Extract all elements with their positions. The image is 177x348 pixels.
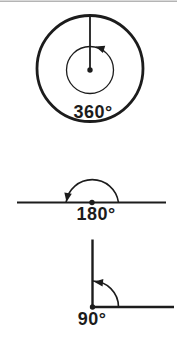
figure-full-rotation: 360° <box>37 16 143 122</box>
figure-straight-angle: 180° <box>17 180 166 224</box>
center-dot <box>87 67 92 72</box>
angle-label-180: 180° <box>76 204 115 224</box>
angle-diagrams-canvas: 360° 180° 90° <box>0 0 177 348</box>
angle-label-360: 360° <box>73 102 112 122</box>
arc-arrowhead-icon <box>63 192 72 202</box>
figure-right-angle: 90° <box>78 240 174 329</box>
arc-arrowhead-icon <box>94 278 104 286</box>
semicircle-arc <box>66 180 119 203</box>
angle-label-90: 90° <box>78 309 107 329</box>
quarter-arc <box>93 281 119 307</box>
diagram-sheet: 360° 180° 90° <box>0 0 177 348</box>
